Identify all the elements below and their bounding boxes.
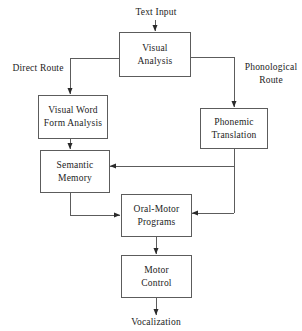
node-oral-motor-programs-label: Oral-Motor Programs (132, 203, 182, 229)
label-vocalization: Vocalization (120, 316, 192, 329)
node-oral-motor-programs[interactable]: Oral-Motor Programs (121, 194, 192, 237)
node-visual-word-form-analysis[interactable]: Visual Word Form Analysis (38, 95, 108, 139)
label-direct-route: Direct Route (2, 62, 74, 75)
node-semantic-memory-label: Semantic Memory (55, 159, 96, 185)
node-visual-analysis[interactable]: Visual Analysis (119, 32, 191, 77)
edge-visual-analysis-to-visual-word-form (70, 58, 119, 94)
node-motor-control[interactable]: Motor Control (121, 255, 192, 298)
node-visual-analysis-label: Visual Analysis (136, 42, 175, 68)
node-phonemic-translation[interactable]: Phonemic Translation (200, 108, 268, 149)
label-text-input: Text Input (124, 6, 188, 19)
node-visual-word-form-analysis-label: Visual Word Form Analysis (42, 104, 104, 130)
edge-semantic-memory-to-oral-motor (70, 192, 120, 215)
node-motor-control-label: Motor Control (139, 264, 173, 290)
label-phonological-route: Phonological Route (240, 61, 302, 87)
edge-visual-analysis-to-phonemic-translation (191, 57, 234, 107)
node-phonemic-translation-label: Phonemic Translation (209, 116, 258, 142)
node-semantic-memory[interactable]: Semantic Memory (40, 150, 110, 193)
flowchart-diagram: Text Input Direct Route Phonological Rou… (0, 0, 302, 331)
